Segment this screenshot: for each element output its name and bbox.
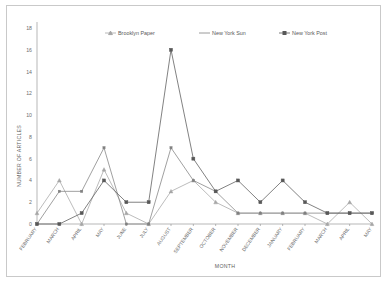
y-axis: 024681012141618 <box>26 22 37 227</box>
legend-label-1: Brooklyn Paper <box>118 30 155 36</box>
legend-marker-1 <box>109 31 113 34</box>
series-line-1 <box>37 170 372 224</box>
y-tick-label: 10 <box>26 112 32 118</box>
data-point <box>148 223 150 225</box>
data-point <box>102 168 106 172</box>
x-tick-label: MARCH <box>314 226 329 244</box>
data-point <box>259 212 261 214</box>
data-point <box>214 190 217 193</box>
chart-legend: Brooklyn PaperNew York SunNew York Post <box>105 30 328 36</box>
x-tick-label: DECEMBER <box>241 226 261 252</box>
x-tick-label: AUGUST <box>156 227 172 247</box>
x-tick-label: JULY <box>139 226 150 239</box>
y-tick-label: 2 <box>29 199 32 205</box>
legend-marker-3 <box>283 32 286 35</box>
y-tick-label: 18 <box>26 25 32 31</box>
y-tick-label: 16 <box>26 47 32 53</box>
y-tick-label: 14 <box>26 69 32 75</box>
y-tick-label: 6 <box>29 156 32 162</box>
series-line-3 <box>37 50 372 224</box>
data-point <box>147 201 150 204</box>
x-tick-label: MARCH <box>46 226 61 244</box>
data-point <box>304 201 307 204</box>
data-point <box>192 157 195 160</box>
y-axis-title: NUMBER OF ARTICLES <box>16 125 22 187</box>
data-point <box>169 189 173 193</box>
data-point <box>371 212 374 215</box>
y-tick-label: 0 <box>29 221 32 227</box>
data-point <box>81 190 83 192</box>
x-tick-label: MAY <box>95 226 105 238</box>
series-1 <box>35 168 374 226</box>
x-tick-label: MAY <box>363 226 373 238</box>
x-axis-title: MONTH <box>215 263 235 269</box>
x-tick-label: NOVEMBER <box>219 226 239 252</box>
x-tick-label: FEBRUARY <box>286 226 306 251</box>
data-point <box>259 201 262 204</box>
y-tick-label: 8 <box>29 134 32 140</box>
chart-series-group <box>35 48 374 225</box>
legend-label-2: New York Sun <box>212 30 246 36</box>
data-point <box>103 147 105 149</box>
x-tick-label: JUNE <box>116 226 128 240</box>
y-tick-label: 4 <box>29 177 32 183</box>
data-point <box>282 212 284 214</box>
series-line-2 <box>37 148 372 224</box>
data-point <box>80 212 83 215</box>
chart-frame: Brooklyn PaperNew York SunNew York Post … <box>6 5 381 277</box>
data-point <box>237 179 240 182</box>
data-point <box>125 223 127 225</box>
data-point <box>304 212 306 214</box>
data-point <box>58 190 60 192</box>
x-tick-label: OCTOBER <box>199 226 217 249</box>
legend-label-3: New York Post <box>292 30 328 36</box>
data-point <box>124 211 128 215</box>
chart-canvas: Brooklyn PaperNew York SunNew York Post … <box>7 6 382 278</box>
data-point <box>58 223 61 226</box>
data-point <box>348 200 352 204</box>
x-tick-label: FEBRUARY <box>18 226 38 251</box>
data-point <box>170 48 173 51</box>
data-point <box>192 179 194 181</box>
series-3 <box>36 48 374 225</box>
data-point <box>170 147 172 149</box>
data-point <box>281 179 284 182</box>
data-point <box>57 179 61 183</box>
x-axis: FEBRUARYMARCHAPRILMAYJUNEJULYAUGUSTSEPTE… <box>18 224 373 254</box>
data-point <box>103 179 106 182</box>
data-point <box>237 212 239 214</box>
x-tick-label: APRIL <box>338 226 350 241</box>
data-point <box>125 201 128 204</box>
line-chart: Brooklyn PaperNew York SunNew York Post … <box>7 6 380 276</box>
y-tick-label: 12 <box>26 90 32 96</box>
data-point <box>36 223 39 226</box>
series-2 <box>36 147 373 225</box>
x-tick-label: SEPTEMBER <box>173 226 195 254</box>
x-tick-label: APRIL <box>70 226 82 241</box>
x-tick-label: JANUARY <box>266 226 284 248</box>
data-point <box>326 212 329 215</box>
data-point <box>348 212 351 215</box>
